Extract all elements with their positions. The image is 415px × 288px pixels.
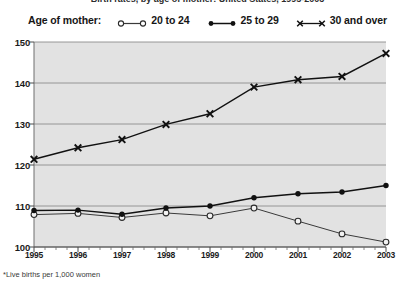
x-axis-major-ticks bbox=[34, 247, 386, 252]
legend-entry-30-and-over: 30 and over bbox=[296, 14, 387, 26]
legend-label-20-to-24: 20 to 24 bbox=[151, 14, 189, 26]
open-circle-icon bbox=[117, 15, 147, 26]
data-series-layer bbox=[31, 50, 390, 245]
plot-svg bbox=[0, 30, 415, 260]
chart-footnote: *Live births per 1,000 women bbox=[3, 270, 100, 279]
legend-title: Age of mother: bbox=[28, 14, 101, 26]
legend-label-25-to-29: 25 to 29 bbox=[241, 14, 279, 26]
chart-legend: Age of mother: 20 to 24 25 to 29 bbox=[0, 12, 415, 28]
x-cross-icon bbox=[296, 15, 326, 26]
filled-circle-icon bbox=[207, 15, 237, 26]
legend-label-30-and-over: 30 and over bbox=[330, 14, 387, 26]
chart-title-strip: Birth rates, by age of mother: United St… bbox=[0, 0, 415, 7]
series-30-and-over bbox=[31, 50, 390, 162]
series-25-to-29 bbox=[31, 183, 388, 217]
chart-title: Birth rates, by age of mother: United St… bbox=[0, 0, 415, 4]
chart-plot-area: 150 140 130 120 110 100 1995 1996 1997 1… bbox=[0, 30, 415, 260]
legend-entry-20-to-24: 20 to 24 bbox=[117, 14, 189, 26]
legend-entry-25-to-29: 25 to 29 bbox=[207, 14, 279, 26]
